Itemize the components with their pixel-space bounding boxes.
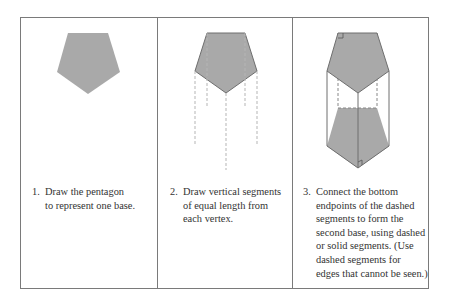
step-1-caption: 1. Draw the pentagon to represent one ba… (32, 185, 152, 212)
step-3-caption: 3. Connect the bottom endpoints of the d… (303, 185, 433, 280)
pentagon-base-step1 (57, 33, 120, 94)
step-2-caption: 2. Draw vertical segments of equal lengt… (170, 185, 290, 226)
pentagon-with-segments-step2 (195, 33, 257, 170)
pentagonal-prism-step3 (327, 33, 389, 168)
